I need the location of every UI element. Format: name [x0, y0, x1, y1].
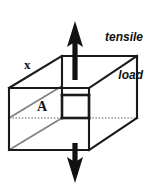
- tensile-load-line-2: load: [105, 69, 143, 82]
- x-dimension-label: x: [24, 58, 31, 72]
- tensile-load-diagram: tensile load x A: [0, 0, 149, 190]
- edge-top-left-receding: [9, 56, 62, 88]
- edge-bottom-right-receding: [89, 118, 137, 150]
- interior-edge-lower-left-diagonal: [9, 118, 62, 150]
- tensile-load-line-1: tensile: [105, 31, 143, 44]
- top-load-arrow-glyph: [67, 21, 83, 80]
- top-load-arrow: [67, 21, 83, 80]
- tensile-load-label: tensile load: [105, 6, 143, 107]
- interior-edge-upper-left-diagonal: [9, 86, 62, 118]
- area-label: A: [37, 100, 47, 115]
- cross-section-area-A: [62, 95, 89, 118]
